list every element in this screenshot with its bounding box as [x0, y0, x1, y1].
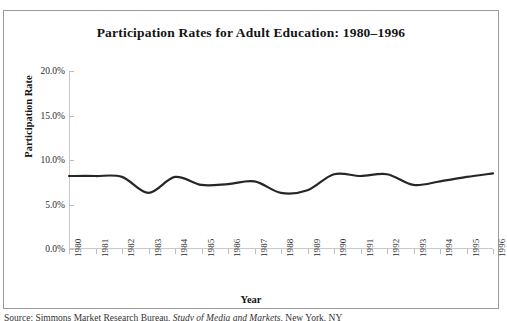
source-note: Source: Simmons Market Research Bureau, … — [4, 313, 500, 321]
source-publication: Study of Media and Markets, — [173, 313, 283, 321]
y-axis-title: Participation Rate — [23, 47, 34, 187]
x-tick-mark — [281, 249, 282, 254]
source-prefix: Source: Simmons Market Research Bureau, — [4, 313, 173, 321]
x-tick-label: 1989 — [312, 239, 322, 257]
x-tick-mark — [334, 249, 335, 254]
x-tick-label: 1994 — [444, 239, 454, 257]
chart-title: Participation Rates for Adult Education:… — [4, 25, 498, 41]
x-tick-label: 1982 — [126, 239, 136, 257]
x-tick-mark — [149, 249, 150, 254]
x-tick-label: 1993 — [418, 239, 428, 257]
x-tick-label: 1988 — [285, 239, 295, 257]
y-tick-label: 0.0% — [13, 244, 65, 254]
y-tick-label: 15.0% — [13, 111, 65, 121]
y-tick-label: 20.0% — [13, 66, 65, 76]
x-tick-label: 1980 — [73, 239, 83, 257]
x-tick-mark — [414, 249, 415, 254]
x-tick-mark — [175, 249, 176, 254]
y-tick-mark — [69, 71, 74, 72]
x-tick-label: 1996 — [497, 239, 507, 257]
y-tick-mark — [69, 205, 74, 206]
source-suffix: New York, NY — [283, 313, 342, 321]
y-tick-label: 10.0% — [13, 155, 65, 165]
x-tick-label: 1990 — [338, 239, 348, 257]
x-tick-label: 1987 — [259, 239, 269, 257]
x-tick-mark — [255, 249, 256, 254]
x-tick-mark — [467, 249, 468, 254]
x-tick-label: 1983 — [153, 239, 163, 257]
x-tick-label: 1986 — [232, 239, 242, 257]
x-tick-mark — [122, 249, 123, 254]
x-tick-label: 1991 — [365, 239, 375, 257]
x-tick-mark — [202, 249, 203, 254]
y-axis: 0.0%5.0%10.0%15.0%20.0% — [9, 71, 65, 249]
x-tick-mark — [493, 249, 494, 254]
y-tick-label: 5.0% — [13, 200, 65, 210]
x-tick-mark — [440, 249, 441, 254]
chart-figure: Participation Rates for Adult Education:… — [3, 10, 499, 309]
plot-area — [69, 71, 493, 249]
x-tick-label: 1985 — [206, 239, 216, 257]
x-tick-label: 1995 — [471, 239, 481, 257]
x-tick-mark — [96, 249, 97, 254]
x-tick-mark — [228, 249, 229, 254]
x-tick-mark — [308, 249, 309, 254]
y-tick-mark — [69, 160, 74, 161]
line-series-svg — [69, 71, 493, 249]
x-tick-label: 1981 — [100, 239, 110, 257]
x-tick-label: 1984 — [179, 239, 189, 257]
participation-rate-line — [69, 173, 493, 193]
x-tick-label: 1992 — [391, 239, 401, 257]
x-tick-mark — [387, 249, 388, 254]
x-axis-title: Year — [4, 294, 498, 305]
y-tick-mark — [69, 116, 74, 117]
y-tick-mark — [69, 249, 74, 250]
x-tick-mark — [361, 249, 362, 254]
